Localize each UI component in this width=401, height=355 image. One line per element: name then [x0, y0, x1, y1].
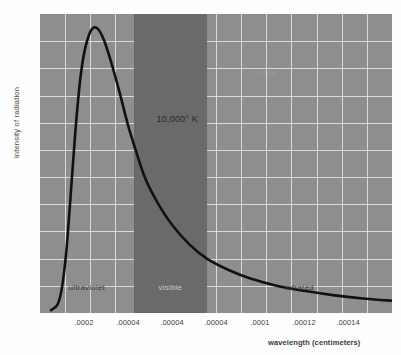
x-tick-label: .00012 [292, 318, 316, 327]
band-label-infrared: infrared [285, 283, 314, 292]
x-tick-label: .00004 [116, 318, 140, 327]
band-label-visible: visible [159, 283, 183, 292]
band-label-ultraviolet: ultraviolet [69, 283, 105, 292]
blackbody-radiation-figure: intensity of radiation ultraviolet visib… [0, 0, 401, 355]
radiation-curve [40, 14, 392, 313]
x-tick-label: .00014 [336, 318, 360, 327]
x-axis-title: wavelength (centimeters) [268, 338, 360, 347]
x-tick-label: .0001 [250, 318, 269, 327]
curve-path [51, 27, 392, 310]
annotation-star-name: Sirius [253, 68, 275, 77]
y-axis-title: intensity of radiation [12, 63, 21, 183]
x-tick-label: .0002 [74, 318, 93, 327]
plot-area: ultraviolet visible infrared 10,000° K S… [40, 14, 392, 313]
annotation-temperature: 10,000° K [157, 114, 198, 124]
x-tick-label: .00004 [204, 318, 228, 327]
x-tick-label: .00004 [160, 318, 184, 327]
x-axis-ticks: .0002.00004.00004.00004.0001.00012.00014 [0, 318, 401, 332]
